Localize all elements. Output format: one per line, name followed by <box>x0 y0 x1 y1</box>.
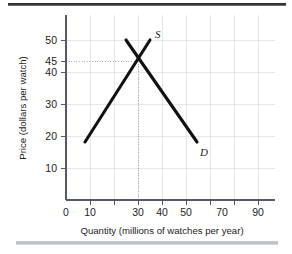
axes <box>66 15 275 200</box>
y-axis-ticks <box>61 40 66 168</box>
x-tick-label-40: 40 <box>156 206 168 218</box>
y-tick-label-30: 30 <box>45 98 57 110</box>
x-axis-ticks <box>90 200 258 205</box>
x-tick-label-0: 0 <box>63 206 69 218</box>
y-tick-label-20: 20 <box>45 130 57 142</box>
figure-container: 50 45 40 30 20 10 0 10 30 40 50 70 90 S … <box>0 0 292 254</box>
x-tick-label-50: 50 <box>180 206 192 218</box>
x-axis-title: Quantity (millions of watches per year) <box>80 225 243 236</box>
supply-curve <box>85 40 150 142</box>
x-tick-label-30: 30 <box>132 206 144 218</box>
x-tick-label-70: 70 <box>216 206 228 218</box>
x-tick-label-10: 10 <box>84 206 96 218</box>
supply-demand-chart: 50 45 40 30 20 10 0 10 30 40 50 70 90 S … <box>0 0 292 254</box>
y-tick-label-50: 50 <box>45 34 57 46</box>
curves <box>85 40 197 142</box>
x-tick-label-90: 90 <box>252 206 264 218</box>
demand-curve-label: D <box>199 146 208 158</box>
x-axis-tick-labels: 0 10 30 40 50 70 90 <box>63 206 264 218</box>
equilibrium-guides <box>66 61 138 200</box>
supply-curve-label: S <box>155 28 161 40</box>
y-axis-title: Price (dollars per watch) <box>17 56 28 159</box>
y-tick-label-10: 10 <box>45 162 57 174</box>
y-tick-label-40: 40 <box>45 66 57 78</box>
bottom-divider-rule <box>16 241 278 245</box>
y-axis-tick-labels: 50 45 40 30 20 10 <box>45 34 57 174</box>
